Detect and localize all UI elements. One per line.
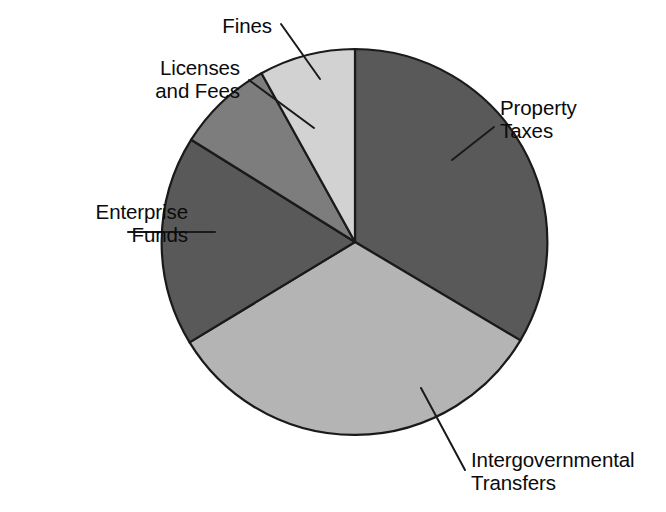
pie-slices — [162, 49, 548, 435]
pie-label-property-taxes: Property Taxes — [500, 96, 660, 142]
pie-label-fines: Fines — [186, 14, 272, 37]
pie-label-intergovernmental-transfers: Intergovernmental Transfers — [471, 448, 666, 494]
pie-chart-figure: Fines Licenses and Fees Enterprise Funds… — [0, 0, 666, 512]
pie-label-enterprise-funds: Enterprise Funds — [6, 200, 188, 246]
pie-label-licenses-and-fees: Licenses and Fees — [62, 56, 240, 102]
